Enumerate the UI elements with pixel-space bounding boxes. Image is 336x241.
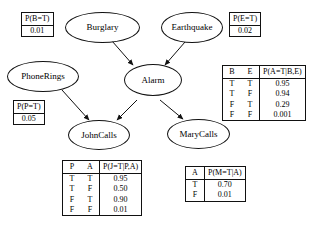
alarm-cpt-cond-header-0: B — [223, 66, 242, 79]
table-row: F F 0.01 — [63, 205, 142, 216]
johncalls-cpt-cell: T — [81, 195, 100, 205]
alarm-cpt-prob: 0.001 — [260, 110, 306, 121]
table-row: T 0.70 — [186, 180, 246, 191]
table-row: T F 0.50 — [63, 184, 142, 194]
table-row: F F 0.001 — [223, 110, 306, 121]
alarm-cpt-prob-header: P(A=T|B,E) — [260, 66, 306, 79]
edge-phonerings-to-johncalls — [62, 90, 89, 120]
johncalls-cpt-header-row: P A P(J=T|P,A) — [63, 161, 142, 174]
alarm-cpt-cell: T — [223, 89, 242, 99]
alarm-cpt-cell: F — [241, 89, 260, 99]
alarm-cpt-cell: T — [241, 100, 260, 110]
alarm-cpt-cell: T — [241, 79, 260, 90]
johncalls-cpt-cell: F — [81, 205, 100, 216]
alarm-cpt-prob: 0.95 — [260, 79, 306, 90]
table-row: F T 0.29 — [223, 100, 306, 110]
edge-alarm-to-johncalls — [117, 100, 137, 120]
marycalls-cpt-prob: 0.70 — [205, 180, 246, 191]
marycalls-cpt-prob-header: P(M=T|A) — [205, 167, 246, 180]
table-row: T T 0.95 — [223, 79, 306, 90]
johncalls-cpt-cond-header-1: A — [81, 161, 100, 174]
alarm-cpt-prob: 0.29 — [260, 100, 306, 110]
johncalls-cpt-prob: 0.01 — [100, 205, 142, 216]
marycalls-cpt-prob: 0.01 — [205, 190, 246, 201]
node-earthquake[interactable]: Earthquake — [161, 12, 223, 43]
table-row: F T 0.90 — [63, 195, 142, 205]
alarm-cpt-cell: T — [223, 79, 242, 90]
node-johncalls[interactable]: JohnCalls — [68, 120, 130, 150]
table-johncalls-cpt: P A P(J=T|P,A) T T 0.95 T F 0.50 F T 0.9… — [62, 160, 142, 216]
johncalls-cpt-cell: T — [63, 174, 82, 185]
marycalls-cpt-cell: F — [186, 190, 205, 201]
table-phonerings-prior: P(P=T) 0.05 — [13, 100, 45, 125]
johncalls-cpt-cell: F — [63, 195, 82, 205]
earthquake-prior-header: P(E=T) — [230, 13, 261, 26]
table-burglary-prior: P(B=T) 0.01 — [21, 12, 54, 37]
edge-burglary-to-alarm — [112, 41, 133, 65]
node-burglary[interactable]: Burglary — [65, 12, 140, 43]
alarm-cpt-cell: F — [241, 110, 260, 121]
node-marycalls-label: MaryCalls — [180, 130, 218, 139]
node-earthquake-label: Earthquake — [172, 23, 213, 32]
edge-alarm-to-marycalls — [160, 100, 183, 119]
bayesian-network-diagram: Burglary Earthquake PhoneRings Alarm Joh… — [0, 0, 336, 241]
table-row: T T 0.95 — [63, 174, 142, 185]
johncalls-cpt-cell: T — [81, 174, 100, 185]
marycalls-cpt-cond-header-0: A — [186, 167, 205, 180]
alarm-cpt-prob: 0.94 — [260, 89, 306, 99]
johncalls-cpt-prob: 0.90 — [100, 195, 142, 205]
node-phonerings[interactable]: PhoneRings — [7, 61, 79, 92]
alarm-cpt-cell: F — [223, 110, 242, 121]
node-johncalls-label: JohnCalls — [81, 131, 117, 140]
table-row: T F 0.94 — [223, 89, 306, 99]
alarm-cpt-cond-header-1: E — [241, 66, 260, 79]
johncalls-cpt-cell: T — [63, 184, 82, 194]
node-marycalls[interactable]: MaryCalls — [167, 119, 230, 149]
johncalls-cpt-prob-header: P(J=T|P,A) — [100, 161, 142, 174]
table-alarm-cpt: B E P(A=T|B,E) T T 0.95 T F 0.94 F T 0.2… — [222, 65, 306, 121]
phonerings-prior-value: 0.05 — [14, 114, 45, 125]
alarm-cpt-cell: F — [223, 100, 242, 110]
marycalls-cpt-cell: T — [186, 180, 205, 191]
johncalls-cpt-cond-header-0: P — [63, 161, 82, 174]
johncalls-cpt-prob: 0.50 — [100, 184, 142, 194]
node-phonerings-label: PhoneRings — [21, 72, 65, 81]
burglary-prior-value: 0.01 — [22, 26, 54, 37]
phonerings-prior-header: P(P=T) — [14, 101, 45, 114]
table-row: F 0.01 — [186, 190, 246, 201]
edge-earthquake-to-alarm — [165, 42, 185, 65]
johncalls-cpt-cell: F — [81, 184, 100, 194]
johncalls-cpt-prob: 0.95 — [100, 174, 142, 185]
johncalls-cpt-cell: F — [63, 205, 82, 216]
node-alarm[interactable]: Alarm — [124, 64, 182, 96]
table-marycalls-cpt: A P(M=T|A) T 0.70 F 0.01 — [185, 166, 246, 202]
node-alarm-label: Alarm — [142, 76, 165, 85]
table-earthquake-prior: P(E=T) 0.02 — [229, 12, 261, 37]
marycalls-cpt-header-row: A P(M=T|A) — [186, 167, 246, 180]
earthquake-prior-value: 0.02 — [230, 26, 261, 37]
alarm-cpt-header-row: B E P(A=T|B,E) — [223, 66, 306, 79]
node-burglary-label: Burglary — [87, 23, 119, 32]
burglary-prior-header: P(B=T) — [22, 13, 54, 26]
